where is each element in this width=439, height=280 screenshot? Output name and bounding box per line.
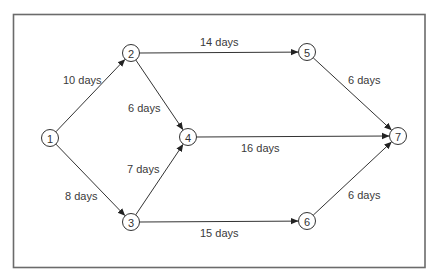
node-4: 4 <box>180 129 197 146</box>
edges-layer <box>56 52 392 222</box>
node-label: 1 <box>47 133 53 145</box>
node-1: 1 <box>42 130 59 147</box>
node-label: 6 <box>304 216 310 228</box>
edge-1-to-2 <box>56 60 125 132</box>
edge-5-to-7 <box>313 58 391 130</box>
node-label: 5 <box>304 47 310 59</box>
node-2: 2 <box>123 45 140 62</box>
node-3: 3 <box>123 214 140 231</box>
network-diagram: 10 days8 days14 days6 days7 days15 days1… <box>0 0 439 280</box>
edge-label-3-to-4: 7 days <box>127 163 160 175</box>
edge-2-to-4 <box>136 60 183 130</box>
edge-1-to-3 <box>56 144 125 215</box>
edge-label-1-to-3: 8 days <box>65 190 98 202</box>
edge-label-4-to-7: 16 days <box>241 142 280 154</box>
node-label: 7 <box>395 131 401 143</box>
edge-4-to-7 <box>197 136 390 137</box>
node-5: 5 <box>299 44 316 61</box>
edge-labels-layer: 10 days8 days14 days6 days7 days15 days1… <box>63 36 381 239</box>
edge-label-3-to-6: 15 days <box>200 227 239 239</box>
node-label: 3 <box>128 217 134 229</box>
node-6: 6 <box>299 213 316 230</box>
edge-label-2-to-5: 14 days <box>200 36 239 48</box>
node-label: 4 <box>185 132 191 144</box>
edge-label-5-to-7: 6 days <box>348 74 381 86</box>
edge-3-to-4 <box>136 145 183 215</box>
node-7: 7 <box>390 128 407 145</box>
edge-6-to-7 <box>313 142 391 215</box>
edge-2-to-5 <box>140 52 299 53</box>
edge-label-1-to-2: 10 days <box>63 74 102 86</box>
edge-label-6-to-7: 6 days <box>348 189 381 201</box>
node-label: 2 <box>128 48 134 60</box>
edge-label-2-to-4: 6 days <box>128 102 161 114</box>
edge-3-to-6 <box>140 221 299 222</box>
